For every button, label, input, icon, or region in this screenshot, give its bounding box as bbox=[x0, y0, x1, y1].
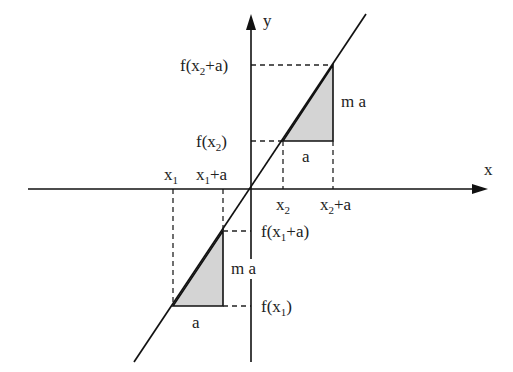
y-axis-arrow-icon bbox=[246, 14, 256, 30]
y-axis-label: y bbox=[263, 11, 272, 30]
label-x1-plus-a: x1+a bbox=[196, 165, 228, 186]
label-f-x1-plus-a: f(x1+a) bbox=[261, 222, 309, 243]
label-x2: x2 bbox=[276, 195, 290, 216]
label-f-x2-plus-a: f(x2+a) bbox=[180, 56, 228, 77]
lower-run-label: a bbox=[192, 313, 200, 332]
lower-slope-triangle bbox=[173, 231, 223, 306]
upper-rise-label: m a bbox=[341, 92, 366, 111]
label-x1: x1 bbox=[164, 165, 178, 186]
upper-run-label: a bbox=[302, 147, 310, 166]
function-line bbox=[134, 14, 366, 362]
x-axis-label: x bbox=[484, 160, 493, 179]
label-x2-plus-a: x2+a bbox=[320, 195, 352, 216]
label-f-x2: f(x2) bbox=[196, 132, 227, 153]
x-axis-arrow-icon bbox=[472, 184, 488, 194]
slope-diagram: y x x1 x1+a x2 x2+a f(x2+a) f(x2) f(x1+a… bbox=[0, 0, 513, 372]
label-f-x1: f(x1) bbox=[261, 297, 292, 318]
lower-rise-label: m a bbox=[231, 259, 256, 278]
upper-slope-triangle bbox=[283, 65, 333, 141]
